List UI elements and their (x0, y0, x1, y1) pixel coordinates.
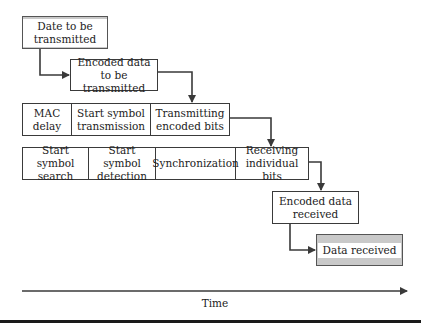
start-node: Date to be transmitted (22, 16, 108, 49)
transmit-row: MAC delay Start symbol transmission Tran… (22, 103, 230, 136)
rx-cell-receiving-bits: Receiving individual bits (236, 148, 308, 179)
encoded-rx-label: Encoded data received (273, 195, 358, 221)
start-node-label: Date to be transmitted (23, 19, 107, 47)
rx-cell-synchronization: Synchronization (156, 148, 236, 179)
end-node: Data received (316, 234, 403, 266)
tx-cell-start-symbol-transmission: Start symbol transmission (72, 104, 151, 135)
end-node-label: Data received (318, 243, 400, 258)
tx-cell-mac-delay: MAC delay (23, 104, 72, 135)
rx-cell-start-symbol-detection: Start symbol detection (89, 148, 156, 179)
time-axis-label: Time (195, 297, 235, 309)
encoded-tx-node: Encoded data to be transmitted (70, 59, 158, 91)
receive-row: Start symbol search Start symbol detecti… (22, 147, 309, 180)
encoded-rx-node: Encoded data received (272, 191, 359, 224)
tx-cell-transmitting-bits: Transmitting encoded bits (151, 104, 229, 135)
bottom-rule (0, 320, 421, 323)
rx-cell-start-symbol-search: Start symbol search (23, 148, 89, 179)
encoded-tx-label: Encoded data to be transmitted (71, 56, 157, 95)
